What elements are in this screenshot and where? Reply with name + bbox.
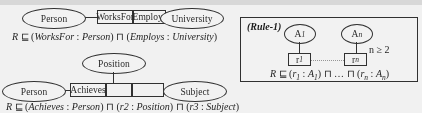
axiom2-connective-1: ⊓ <box>106 101 114 112</box>
axiom-rule-1: R ⊑ (r1 : A1) ⊓ … ⊓ (rn : An) <box>270 68 389 82</box>
axiom1-concept-2: University <box>172 31 214 42</box>
axiom-worksfor-employs: R ⊑ (WorksFor : Person) ⊓ (Employs : Uni… <box>12 31 217 42</box>
axiom2-concept-2: Position <box>137 101 170 112</box>
role-box-r3[interactable] <box>132 83 164 97</box>
axiom3-subsumption-symbol: ⊑ <box>279 68 287 79</box>
entity-person-top[interactable]: Person <box>22 8 86 29</box>
axiom1-role-2: Employs <box>130 31 164 42</box>
role-box-achieves[interactable]: Achieves <box>70 83 106 97</box>
axiom2-role-1: Achieves <box>28 101 64 112</box>
axiom3-colon-2: : <box>368 68 376 79</box>
entity-a1[interactable]: A1 <box>284 24 316 44</box>
axiom3-ellipsis: … <box>334 68 344 79</box>
top-gray-band <box>0 0 422 5</box>
axiom1-concept-1: Person <box>82 31 110 42</box>
axiom2-concept-1: Person <box>72 101 100 112</box>
entity-an[interactable]: An <box>341 24 373 44</box>
role-box-r1[interactable]: r1 <box>288 53 311 66</box>
axiom2-subject: R <box>6 101 12 112</box>
axiom2-concept-3: Subject <box>206 101 235 112</box>
rule-1-title: (Rule-1) <box>247 21 281 32</box>
rule-1-panel: (Rule-1) A1 An r1 rn n ≥ 2 R ⊑ (r1 : A1)… <box>240 17 418 82</box>
axiom-achieves: R ⊑ (Achieves : Person) ⊓ (r2 : Position… <box>6 101 239 112</box>
axiom3-close-2: ) <box>386 68 389 79</box>
axiom3-close-1: ) <box>318 68 321 79</box>
axiom3-colon-1: : <box>300 68 308 79</box>
axiom2-role-2: r2 <box>120 101 129 112</box>
entity-position[interactable]: Position <box>82 53 146 74</box>
axiom1-subsumption-symbol: ⊑ <box>21 31 29 42</box>
axiom2-subsumption-symbol: ⊑ <box>15 101 23 112</box>
role-r1-subscript: 1 <box>299 55 303 64</box>
rule-1-condition: n ≥ 2 <box>369 44 390 55</box>
axiom3-subject: R <box>270 68 276 79</box>
role-box-r2[interactable] <box>106 83 132 97</box>
connector-position-to-role <box>113 72 114 83</box>
entity-a1-subscript: 1 <box>302 30 306 39</box>
axiom2-connective-2: ⊓ <box>176 101 184 112</box>
role-box-worksfor[interactable]: WorksFor <box>97 10 133 24</box>
figure-canvas: Person WorksFor Employs University R ⊑ (… <box>0 0 422 113</box>
axiom1-role-1: WorksFor <box>34 31 74 42</box>
entity-university[interactable]: University <box>160 8 224 29</box>
axiom3-connective-1: ⊓ <box>324 68 332 79</box>
role-box-rn[interactable]: rn <box>344 53 367 66</box>
axiom2-role-3: r3 <box>190 101 199 112</box>
axiom3-connective-2: ⊓ <box>347 68 355 79</box>
axiom1-subject: R <box>12 31 18 42</box>
entity-person-bottom[interactable]: Person <box>2 81 66 102</box>
entity-an-subscript: n <box>359 30 363 39</box>
role-rn-subscript: n <box>355 55 359 64</box>
entity-an-label: A <box>352 29 359 39</box>
entity-subject[interactable]: Subject <box>163 81 227 102</box>
role-sequence-ellipsis-line <box>311 60 344 61</box>
axiom1-connective: ⊓ <box>116 31 124 42</box>
entity-a1-label: A <box>295 29 302 39</box>
